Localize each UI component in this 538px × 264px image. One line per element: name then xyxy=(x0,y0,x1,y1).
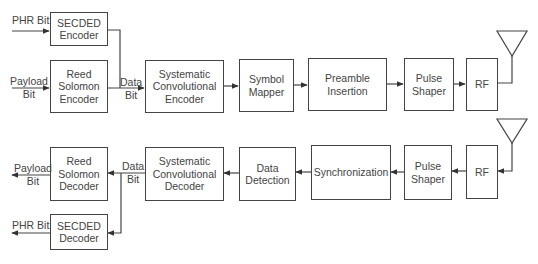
payload-bit-output-label: Payload Bit xyxy=(14,162,52,187)
phr-bit-input-label: PHR Bit xyxy=(12,14,49,27)
preamble-insertion-block: Preamble Insertion xyxy=(308,58,387,111)
wire-secded-enc xyxy=(107,30,120,88)
rx-data-bit-label: Data Bit xyxy=(122,160,144,185)
pulse-shaper-rx-block: Pulse Shaper xyxy=(404,145,452,200)
tx-data-bit-label: Data Bit xyxy=(120,76,142,101)
data-detection-block: Data Detection xyxy=(239,147,296,201)
pulse-shaper-tx-block: Pulse Shaper xyxy=(404,58,454,111)
symbol-mapper-block: Symbol Mapper xyxy=(239,59,294,112)
reed-solomon-encoder-block: Reed Solomon Encoder xyxy=(50,60,108,113)
systematic-convolutional-encoder-block: Systematic Convolutional Encoder xyxy=(145,60,224,113)
reed-solomon-decoder-block: Reed Solomon Decoder xyxy=(50,147,108,201)
antenna-icon xyxy=(497,31,527,56)
rf-tx-block: RF xyxy=(466,58,498,111)
synchronization-block: Synchronization xyxy=(311,145,391,200)
rf-rx-block: RF xyxy=(466,145,498,199)
phr-bit-output-label: PHR Bit xyxy=(12,219,49,232)
payload-bit-input-label: Payload Bit xyxy=(10,75,48,100)
secded-decoder-block: SECDED Decoder xyxy=(50,214,108,250)
antenna-icon xyxy=(497,119,527,143)
systematic-convolutional-decoder-block: Systematic Convolutional Decoder xyxy=(145,147,224,201)
secded-encoder-block: SECDED Encoder xyxy=(50,12,108,46)
